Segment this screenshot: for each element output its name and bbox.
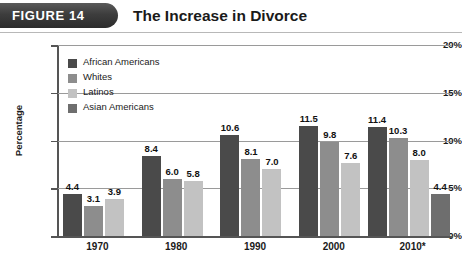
bar[interactable] [368,127,387,236]
figure-header: FIGURE 14 The Increase in Divorce [0,0,462,33]
legend-item-whites[interactable]: Whites [68,71,198,86]
bar[interactable] [163,179,182,236]
x-axis-line [57,236,453,238]
x-tick-label: 2000 [289,241,379,252]
x-tick-label: 1970 [52,241,142,252]
legend-label: Whites [83,71,112,82]
bar[interactable] [431,194,450,236]
bar[interactable] [299,126,318,236]
legend-label: Asian Americans [83,101,154,112]
bar-value-label: 10.3 [382,125,414,136]
bar-value-label: 7.6 [335,150,367,161]
legend-item-asian-americans[interactable]: Asian Americans [68,101,198,116]
bar-chart: Percentage 0%5%10%15%20% 4.43.13.98.46.0… [0,33,462,263]
bar[interactable] [410,160,429,236]
bar[interactable] [84,206,103,236]
bar-value-label: 8.4 [135,143,167,154]
legend-item-african-americans[interactable]: African Americans [68,56,198,71]
bar[interactable] [262,169,281,236]
bar-value-label: 7.0 [256,156,288,167]
bar-value-label: 8.1 [235,146,267,157]
legend-swatch-icon [68,89,77,98]
legend-swatch-icon [68,59,77,68]
bar-value-label: 4.4 [424,181,456,192]
figure-title: The Increase in Divorce [133,7,307,25]
bar-value-label: 9.8 [314,129,346,140]
legend-swatch-icon [68,74,77,83]
bar-value-label: 10.6 [214,122,246,133]
legend-label: Latinos [83,86,114,97]
y-axis-title: Percentage [13,91,24,171]
x-tick-label: 2010* [368,241,458,252]
bar-value-label: 5.8 [177,168,209,179]
x-tick-label: 1980 [131,241,221,252]
bar[interactable] [341,163,360,236]
bar-value-label: 4.4 [56,181,88,192]
legend-swatch-icon [68,104,77,113]
bar-group-2000: 11.59.87.6 [294,45,373,236]
figure-number-tab: FIGURE 14 [0,3,118,28]
bar[interactable] [241,159,260,236]
legend-item-latinos[interactable]: Latinos [68,86,198,101]
bar-value-label: 8.0 [403,147,435,158]
legend-label: African Americans [83,56,160,67]
x-tick-label: 1990 [210,241,300,252]
bar-value-label: 11.4 [361,114,393,125]
bar[interactable] [184,181,203,236]
bar[interactable] [105,199,124,236]
bar-value-label: 11.5 [293,113,325,124]
figure-number-label: FIGURE 14 [12,8,85,23]
bar-group-2010: 11.410.38.04.4 [373,45,452,236]
bar-value-label: 3.9 [98,186,130,197]
chart-legend: African AmericansWhitesLatinosAsian Amer… [68,56,198,116]
bar-group-1990: 10.68.17.0 [216,45,295,236]
